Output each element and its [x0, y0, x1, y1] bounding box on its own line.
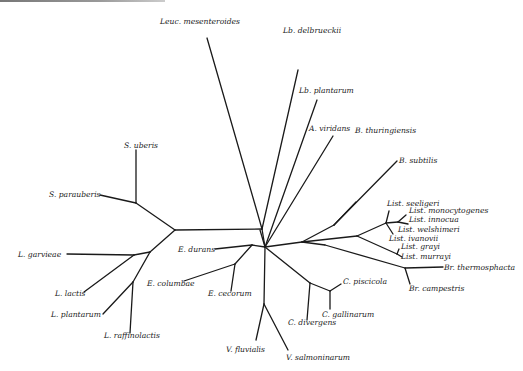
- branch: [398, 222, 408, 224]
- branch: [130, 282, 133, 333]
- branch: [398, 215, 406, 222]
- branch: [252, 245, 265, 247]
- branch: [265, 247, 310, 283]
- branch: [330, 284, 341, 291]
- branch: [357, 223, 386, 236]
- branch: [84, 255, 134, 292]
- taxon-label: L. lactis: [54, 289, 86, 298]
- branch: [265, 100, 317, 247]
- taxon-label: List. innocua: [408, 215, 459, 224]
- taxon-label: C. divergens: [288, 318, 336, 327]
- branch: [256, 304, 264, 340]
- taxon-label: C. piscicola: [343, 277, 387, 286]
- branch: [133, 252, 150, 282]
- taxon-label: V. salmoninarum: [286, 353, 350, 362]
- branch: [100, 195, 136, 203]
- branch: [136, 203, 175, 230]
- taxon-label: B. thuringiensis: [354, 126, 416, 135]
- taxon-label: L. plantarum: [50, 310, 101, 319]
- branch: [67, 254, 134, 255]
- taxon-label: V. fluvialis: [226, 345, 265, 354]
- branch: [334, 202, 356, 225]
- branch: [386, 222, 398, 223]
- taxon-label: Br. campestris: [408, 284, 465, 293]
- branch: [264, 247, 265, 304]
- branch: [215, 245, 252, 249]
- taxon-label: List. grayi: [400, 242, 441, 251]
- branch: [150, 230, 175, 252]
- branch: [310, 283, 330, 291]
- taxon-label: E. durans: [177, 245, 215, 254]
- taxon-label: B. subtilis: [398, 156, 437, 165]
- branch: [325, 245, 405, 268]
- taxon-label: A. viridans: [308, 124, 350, 133]
- taxon-label: Lb. plantarum: [298, 86, 354, 95]
- branch: [207, 38, 262, 229]
- branch: [302, 242, 325, 245]
- branch: [264, 304, 288, 350]
- branch: [175, 229, 262, 230]
- taxon-label: Br. thermosphacta: [443, 263, 516, 272]
- taxon-label: Lb. delbrueckii: [282, 26, 342, 35]
- taxon-label: E. columbae: [146, 279, 195, 288]
- taxon-label: S. parauberis: [49, 190, 101, 199]
- taxon-label: L. garvieae: [17, 250, 62, 259]
- branch: [405, 267, 443, 268]
- taxon-label: List. welshimeri: [397, 225, 460, 234]
- branch: [235, 245, 252, 264]
- branch: [386, 223, 393, 234]
- branch: [103, 282, 133, 314]
- branch: [386, 211, 389, 223]
- taxon-labels: Leuc. mesenteroides Lb. delbrueckii Lb. …: [17, 17, 516, 362]
- branch: [307, 283, 310, 320]
- branch: [405, 268, 410, 284]
- taxon-label: Leuc. mesenteroides: [159, 17, 240, 26]
- branch: [265, 242, 302, 247]
- phylogenetic-tree: Leuc. mesenteroides Lb. delbrueckii Lb. …: [0, 0, 523, 371]
- taxon-label: List. murrayi: [400, 252, 451, 261]
- branch: [134, 252, 150, 255]
- branch: [397, 249, 399, 254]
- branch: [231, 264, 235, 291]
- tree-branches: [67, 38, 443, 350]
- taxon-label: S. uberis: [124, 141, 158, 150]
- taxon-label: List. monocytogenes: [408, 206, 488, 215]
- taxon-label: L. raffinolactis: [103, 331, 160, 340]
- taxon-label: E. cecorum: [207, 289, 252, 298]
